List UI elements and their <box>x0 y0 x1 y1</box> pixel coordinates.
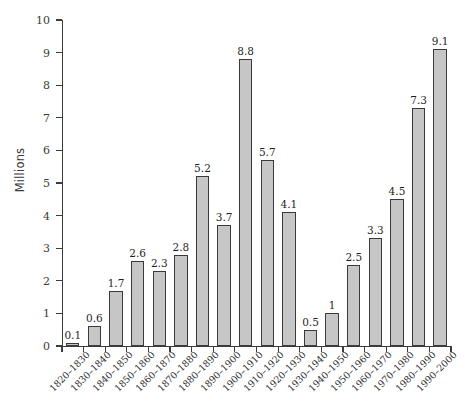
bar <box>369 238 382 346</box>
bar-value-label: 3.3 <box>359 224 391 236</box>
y-axis-tick-label: 10 <box>4 14 50 27</box>
bar-value-label: 2.3 <box>143 257 175 269</box>
y-axis-tick <box>56 19 62 20</box>
bar <box>304 330 317 346</box>
bar-value-label: 0.6 <box>78 312 110 324</box>
bar-value-label: 4.1 <box>273 198 305 210</box>
bar-value-label: 2.8 <box>165 241 197 253</box>
bar <box>390 199 403 346</box>
bar <box>412 108 425 346</box>
bar <box>131 261 144 346</box>
bar-value-label: 0.5 <box>295 316 327 328</box>
y-axis-line <box>62 20 63 346</box>
bar-chart: Millions 012345678910 0.10.61.72.62.32.8… <box>0 0 474 408</box>
bar <box>325 313 338 346</box>
bar-value-label: 8.8 <box>230 45 262 57</box>
bar-value-label: 1 <box>316 299 348 311</box>
bar-value-label: 7.3 <box>403 94 435 106</box>
bar <box>347 265 360 347</box>
y-axis-tick <box>56 280 62 281</box>
bar-value-label: 1.7 <box>100 277 132 289</box>
bar-value-label: 5.2 <box>186 162 218 174</box>
y-axis-tick-label: 9 <box>4 46 50 59</box>
bar <box>88 326 101 346</box>
y-axis-tick-label: 3 <box>4 242 50 255</box>
y-axis-tick-label: 6 <box>4 144 50 157</box>
y-axis-tick-label: 7 <box>4 111 50 124</box>
bar-value-label: 2.5 <box>338 251 370 263</box>
y-axis-tick <box>56 117 62 118</box>
bar <box>217 225 230 346</box>
bar <box>239 59 252 346</box>
y-axis-tick-label: 4 <box>4 209 50 222</box>
y-axis-tick-label: 2 <box>4 274 50 287</box>
bar <box>109 291 122 346</box>
y-axis-tick <box>56 52 62 53</box>
bar <box>433 49 446 346</box>
bar-value-label: 5.7 <box>251 146 283 158</box>
y-axis-tick <box>56 215 62 216</box>
bar <box>174 255 187 346</box>
bar <box>196 176 209 346</box>
y-axis-tick-label: 8 <box>4 79 50 92</box>
bar <box>261 160 274 346</box>
bar <box>153 271 166 346</box>
y-axis-tick-label: 1 <box>4 307 50 320</box>
y-axis-tick <box>56 85 62 86</box>
bar-value-label: 3.7 <box>208 211 240 223</box>
bar-value-label: 9.1 <box>424 35 456 47</box>
bar-value-label: 0.1 <box>57 329 89 341</box>
y-axis-tick <box>56 313 62 314</box>
y-axis-tick-label: 0 <box>4 340 50 353</box>
bar <box>66 343 79 346</box>
bar-value-label: 4.5 <box>381 185 413 197</box>
y-axis-tick <box>56 182 62 183</box>
y-axis-tick-label: 5 <box>4 177 50 190</box>
x-axis-tick <box>61 346 62 352</box>
y-axis-tick <box>56 150 62 151</box>
y-axis-tick <box>56 248 62 249</box>
